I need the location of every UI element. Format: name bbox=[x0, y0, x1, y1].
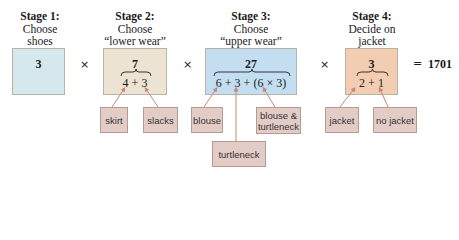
arrow-blouse bbox=[204, 89, 216, 107]
arrow-no-jacket bbox=[380, 89, 388, 107]
arrow-slacks bbox=[146, 89, 158, 107]
label-skirt-text: skirt bbox=[105, 115, 122, 126]
arrow-skirt bbox=[112, 89, 124, 107]
label-no-jacket-text: no jacket bbox=[376, 115, 414, 126]
label-blouse-text: blouse bbox=[193, 115, 221, 126]
label-blouse-turtleneck: blouse & turtleneck bbox=[256, 107, 301, 134]
label-blouse-turtleneck-line1: blouse & bbox=[260, 110, 297, 121]
label-skirt: skirt bbox=[100, 107, 128, 133]
label-blouse-turtleneck-line2: turtleneck bbox=[258, 121, 299, 132]
label-turtleneck: turtleneck bbox=[212, 141, 266, 167]
arrow-blouse-turtleneck bbox=[264, 89, 275, 107]
label-slacks-text: slacks bbox=[147, 115, 173, 126]
label-blouse: blouse bbox=[191, 107, 223, 133]
label-turtleneck-text: turtleneck bbox=[218, 149, 259, 160]
label-jacket: jacket bbox=[325, 107, 359, 133]
label-jacket-text: jacket bbox=[330, 115, 355, 126]
label-slacks: slacks bbox=[143, 107, 178, 133]
arrow-jacket bbox=[340, 89, 354, 107]
label-no-jacket: no jacket bbox=[373, 107, 417, 133]
